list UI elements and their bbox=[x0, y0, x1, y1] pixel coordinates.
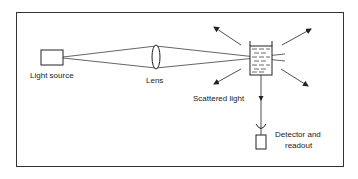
light-source-label: Light source bbox=[30, 71, 74, 81]
detector-label-line1: Detector and bbox=[275, 130, 321, 140]
lens-label: Lens bbox=[146, 76, 163, 86]
lens-icon bbox=[152, 45, 160, 69]
detector-label-line2: readout bbox=[285, 141, 312, 151]
scattered-light-label: Scattered light bbox=[193, 94, 244, 104]
scattering-diagram bbox=[0, 0, 358, 179]
light-source-box bbox=[41, 50, 63, 65]
downward-arrow-icon bbox=[259, 96, 264, 101]
sample-cuvette bbox=[250, 41, 272, 75]
detector-box bbox=[256, 135, 266, 149]
